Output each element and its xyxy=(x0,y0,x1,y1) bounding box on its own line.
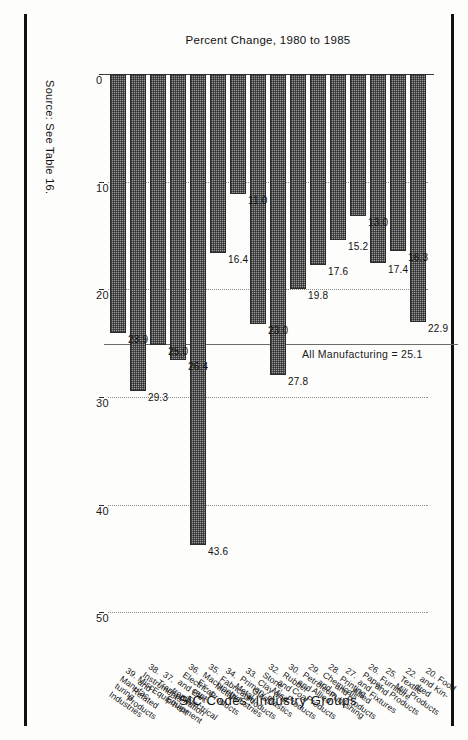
bar[interactable] xyxy=(370,74,386,263)
category-axis-title: SIC Codes: Industry Groups xyxy=(179,693,357,708)
bar-row: 17.4 xyxy=(370,74,386,666)
bar[interactable] xyxy=(390,74,406,251)
bar-value-label: 26.4 xyxy=(188,361,208,372)
bar-row: 13.0 xyxy=(350,74,366,666)
bar-value-label: 11.0 xyxy=(248,195,268,206)
value-axis-tick-label: 50 xyxy=(96,612,109,624)
bar[interactable] xyxy=(350,74,366,216)
bar-value-label: 27.8 xyxy=(288,376,308,387)
page-rule-top xyxy=(451,14,454,726)
value-axis-tick-label: 0 xyxy=(96,74,102,86)
bar[interactable] xyxy=(330,74,346,240)
value-axis-tick-label: 20 xyxy=(96,289,109,301)
value-axis-tick-label: 40 xyxy=(96,505,109,517)
bar[interactable] xyxy=(410,74,426,322)
page-rule-bottom xyxy=(24,14,27,726)
bar-row: 25.0 xyxy=(150,74,166,666)
bar-value-label: 16.4 xyxy=(228,254,248,265)
bar-row: 11.0 xyxy=(230,74,246,666)
rotated-page-wrapper: 01020304050All Manufacturing = 25.122.92… xyxy=(0,0,468,740)
bar-row: 16.4 xyxy=(210,74,226,666)
bar[interactable] xyxy=(170,74,186,360)
bar-value-label: 23.0 xyxy=(268,325,288,336)
bar-value-label: 15.2 xyxy=(348,241,368,252)
bar-row: 15.2 xyxy=(330,74,346,666)
source-note: Source: See Table 16. xyxy=(44,80,56,194)
value-axis-title: Percent Change, 1980 to 1985 xyxy=(185,34,350,46)
bar[interactable] xyxy=(290,74,306,289)
plot-area: 01020304050All Manufacturing = 25.122.92… xyxy=(108,74,428,666)
bar-row: 16.3 xyxy=(390,74,406,666)
bar-value-label: 23.9 xyxy=(128,334,148,345)
bar-row: 22.9 xyxy=(410,74,426,666)
bar-value-label: 43.6 xyxy=(208,546,228,557)
bar-row: 26.4 xyxy=(170,74,186,666)
bar-value-label: 29.3 xyxy=(148,392,168,403)
bar-value-label: 22.9 xyxy=(428,323,448,334)
bar-value-label: 17.4 xyxy=(388,264,408,275)
bar-row: 23.9 xyxy=(110,74,126,666)
bar-value-label: 25.0 xyxy=(168,346,188,357)
bar[interactable] xyxy=(210,74,226,253)
bar-value-label: 17.6 xyxy=(328,266,348,277)
bar-value-label: 16.3 xyxy=(408,252,428,263)
value-axis-tick-label: 10 xyxy=(96,182,109,194)
bar[interactable] xyxy=(230,74,246,194)
bar[interactable] xyxy=(310,74,326,265)
bar-row: 19.8 xyxy=(290,74,306,666)
bar-value-label: 19.8 xyxy=(308,290,328,301)
bar-chart-figure: 01020304050All Manufacturing = 25.122.92… xyxy=(0,0,468,740)
bar[interactable] xyxy=(150,74,166,345)
bar-value-label: 13.0 xyxy=(368,217,388,228)
bar[interactable] xyxy=(110,74,126,333)
bar-row: 17.6 xyxy=(310,74,326,666)
bar-row: 29.3 xyxy=(130,74,146,666)
bar-row: 27.8 xyxy=(270,74,286,666)
bar[interactable] xyxy=(190,74,206,545)
bar-row: 23.0 xyxy=(250,74,266,666)
value-axis-tick-label: 30 xyxy=(96,397,109,409)
